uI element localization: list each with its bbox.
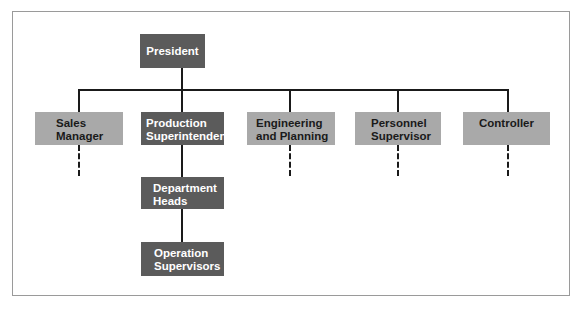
connector-personnel — [397, 89, 399, 112]
node-label-line1: Production — [146, 117, 224, 130]
connector-controller — [507, 89, 509, 112]
dashed-line-personnel — [397, 145, 399, 176]
connector-president-down — [181, 68, 183, 90]
node-production-superintendent: Production Superintendent — [141, 112, 224, 145]
node-sales-manager: Sales Manager — [35, 112, 123, 145]
node-department-heads: Department Heads — [141, 177, 224, 209]
node-label-line2: Heads — [153, 195, 224, 208]
node-label-line2: Superintendent — [146, 130, 224, 143]
node-personnel-supervisor: Personnel Supervisor — [355, 112, 441, 145]
dashed-line-sales — [78, 145, 80, 176]
node-president: President — [140, 34, 205, 68]
node-controller: Controller — [463, 112, 550, 145]
node-label: President — [140, 45, 205, 58]
node-label-line2: Manager — [56, 130, 123, 143]
node-label-line2: Supervisor — [371, 130, 441, 143]
node-label-line1: Controller — [463, 117, 550, 130]
dashed-line-engineering — [289, 145, 291, 176]
connector-production — [181, 89, 183, 112]
node-label-line1: Engineering — [256, 117, 335, 130]
node-label-line1: Department — [153, 182, 224, 195]
connector-heads-to-supervisors — [181, 209, 183, 242]
diagram-frame — [12, 11, 570, 296]
connector-production-to-heads — [181, 145, 183, 177]
connector-engineering — [289, 89, 291, 112]
node-label-line1: Sales — [56, 117, 123, 130]
node-label-line2: and Planning — [256, 130, 335, 143]
node-engineering-and-planning: Engineering and Planning — [247, 112, 335, 145]
node-label-line1: Personnel — [371, 117, 441, 130]
node-label-line2: Supervisors — [154, 260, 224, 273]
node-operation-supervisors: Operation Supervisors — [141, 242, 224, 276]
connector-horizontal-bus — [78, 89, 509, 91]
dashed-line-controller — [507, 145, 509, 176]
node-label-line1: Operation — [154, 247, 224, 260]
connector-sales — [78, 89, 80, 112]
